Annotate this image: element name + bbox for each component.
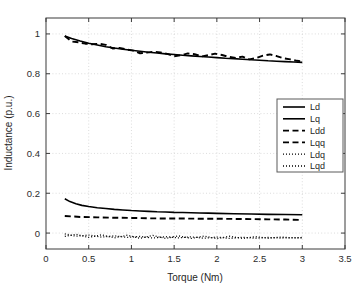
y-tick-label: 0.2 (27, 188, 40, 199)
x-tick-label: 3.5 (338, 253, 351, 264)
x-tick-label: 0 (43, 253, 48, 264)
x-tick-label: 0.5 (82, 253, 95, 264)
x-tick-label: 3 (300, 253, 305, 264)
y-axis-label: Inductance (p.u.) (3, 95, 14, 170)
x-tick-label: 2.5 (253, 253, 266, 264)
legend-label-ldq: Ldq (310, 150, 325, 160)
y-tick-label: 0 (35, 228, 40, 239)
chart-figure: 00.511.522.533.5 00.20.40.60.81 Torque (… (0, 0, 361, 297)
y-tick-label: 0.6 (27, 108, 40, 119)
legend-label-lq: Lq (310, 114, 320, 124)
legend-label-lqq: Lqq (310, 138, 325, 148)
y-tick-label: 0.4 (27, 148, 40, 159)
legend-label-ldd: Ldd (310, 126, 325, 136)
inductance-vs-torque-chart: 00.511.522.533.5 00.20.40.60.81 Torque (… (0, 0, 361, 297)
x-tick-label: 1 (129, 253, 134, 264)
y-tick-label: 0.8 (27, 68, 40, 79)
x-tick-label: 2 (214, 253, 219, 264)
x-tick-label: 1.5 (168, 253, 181, 264)
x-axis-label: Torque (Nm) (167, 272, 223, 283)
chart-legend[interactable]: LdLqLddLqqLdqLqd (277, 99, 343, 172)
legend-label-ld: Ld (310, 102, 320, 112)
legend-label-lqd: Lqd (310, 161, 325, 171)
y-tick-label: 1 (35, 28, 40, 39)
